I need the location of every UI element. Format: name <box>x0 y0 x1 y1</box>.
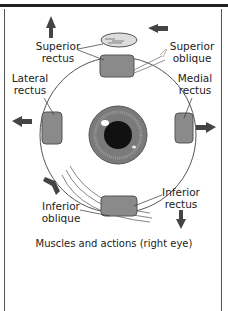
label-medial-rectus: Medial rectus <box>172 72 218 96</box>
superior-rectus-muscle <box>100 55 134 77</box>
label-inferior-rectus: Inferior rectus <box>156 186 206 210</box>
label-inferior-oblique: Inferior oblique <box>36 200 86 224</box>
lateral-rectus-muscle <box>42 112 62 144</box>
arrow-down-right-icon <box>43 177 60 195</box>
label-superior-rectus: Superior rectus <box>28 40 88 64</box>
figure-caption: Muscles and actions (right eye) <box>0 238 228 249</box>
arrow-down-icon <box>176 210 186 229</box>
label-lateral-rectus: Lateral rectus <box>8 72 52 96</box>
pupil <box>104 121 132 149</box>
arrow-left-icon <box>148 24 168 33</box>
arrow-up-icon <box>46 16 56 38</box>
arrow-left-icon-2 <box>12 116 32 127</box>
trochlea <box>101 33 137 47</box>
label-superior-oblique: Superior oblique <box>164 40 220 64</box>
inferior-rectus-muscle <box>101 196 137 216</box>
arrow-right-icon <box>196 122 216 133</box>
